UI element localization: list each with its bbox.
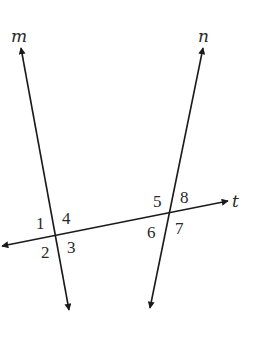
line-m-label: m xyxy=(11,26,27,46)
angle-label-1: 1 xyxy=(36,214,45,233)
line-t-label: t xyxy=(232,191,239,211)
angle-label-4: 4 xyxy=(62,209,71,228)
line-m-segment xyxy=(21,48,69,310)
angle-label-7: 7 xyxy=(175,219,184,238)
line-n-label: n xyxy=(198,26,209,46)
angle-label-5: 5 xyxy=(153,192,162,211)
angle-label-2: 2 xyxy=(41,243,50,262)
angle-label-8: 8 xyxy=(180,188,189,207)
angle-label-3: 3 xyxy=(67,238,76,257)
angle-labels-n-t: 5 8 6 7 xyxy=(147,188,189,242)
line-n: n xyxy=(150,26,209,308)
line-m: m xyxy=(11,26,69,310)
geometry-diagram: m n t 1 4 2 3 5 8 6 7 xyxy=(0,0,271,339)
line-n-segment xyxy=(150,48,203,308)
angle-label-6: 6 xyxy=(147,223,156,242)
